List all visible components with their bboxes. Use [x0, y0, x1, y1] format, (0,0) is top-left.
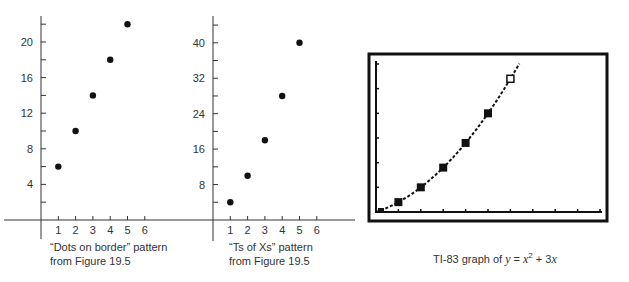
chart-dots-on-border: 48121620123456 [4, 16, 180, 239]
calculator-screen-frame [369, 54, 607, 221]
data-point [227, 199, 233, 205]
data-point [484, 109, 492, 117]
y-tick-label: 24 [193, 108, 205, 120]
data-point [55, 163, 61, 169]
data-point [394, 198, 402, 206]
x-tick-label: 1 [227, 224, 233, 236]
y-tick-label: 20 [21, 36, 33, 48]
caption-line-2: from Figure 19.5 [229, 254, 313, 268]
data-point [107, 57, 113, 63]
data-point [72, 128, 78, 134]
caption-line-1: “Dots on border” pattern [50, 240, 167, 254]
trace-cursor [507, 75, 514, 82]
caption-chart-2: “Ts of Xs” pattern from Figure 19.5 [229, 240, 313, 268]
x-tick-label: 2 [245, 224, 251, 236]
x-tick-label: 2 [73, 224, 79, 236]
caption-line-2: from Figure 19.5 [50, 254, 167, 268]
x-tick-label: 4 [107, 224, 113, 236]
x-tick-label: 5 [124, 224, 130, 236]
data-point [279, 93, 285, 99]
x-tick-label: 3 [262, 224, 268, 236]
x-tick-label: 3 [90, 224, 96, 236]
y-tick-label: 32 [193, 72, 205, 84]
chart-ti83-graph [369, 54, 607, 221]
data-point [439, 164, 447, 172]
y-tick-label: 40 [193, 37, 205, 49]
x-tick-label: 4 [279, 224, 285, 236]
caption-chart-3: TI-83 graph of y = x2 + 3x [433, 249, 557, 266]
y-tick-label: 4 [27, 178, 33, 190]
data-point [262, 137, 268, 143]
data-point [417, 183, 425, 191]
caption-line-1: “Ts of Xs” pattern [229, 240, 313, 254]
data-point [378, 208, 384, 212]
data-point [244, 173, 250, 179]
x-tick-label: 6 [142, 224, 148, 236]
caption-prefix: TI-83 graph of [433, 253, 505, 265]
data-point [90, 92, 96, 98]
x-tick-label: 5 [296, 224, 302, 236]
caption-eq: = [510, 253, 523, 265]
y-tick-label: 16 [21, 72, 33, 84]
caption-var-x-2: x [551, 252, 556, 266]
chart-ts-of-xs: 816243240123456 [180, 16, 355, 241]
data-point [124, 21, 130, 27]
data-point [296, 40, 302, 46]
x-tick-label: 1 [55, 224, 61, 236]
caption-chart-1: “Dots on border” pattern from Figure 19.… [50, 240, 167, 268]
data-point [462, 139, 470, 147]
function-curve [376, 64, 519, 212]
y-tick-label: 8 [27, 143, 33, 155]
caption-plus: + 3 [533, 253, 552, 265]
y-tick-label: 12 [21, 107, 33, 119]
y-tick-label: 16 [193, 143, 205, 155]
y-tick-label: 8 [199, 179, 205, 191]
x-tick-label: 6 [314, 224, 320, 236]
